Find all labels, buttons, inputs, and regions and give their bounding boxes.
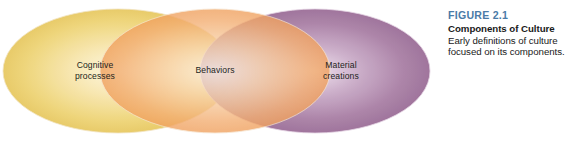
figure-caption-title: Components of Culture <box>448 23 555 34</box>
figure-2-1: Cognitive processes Behaviors Material c… <box>0 0 572 145</box>
venn-diagram-graphic <box>0 0 436 145</box>
ellipse-behaviors <box>100 9 330 133</box>
figure-number-label: FIGURE 2.1 <box>448 9 570 22</box>
figure-caption: FIGURE 2.1 Components of CultureEarly de… <box>448 9 570 58</box>
figure-caption-body: Components of CultureEarly definitions o… <box>448 23 570 58</box>
venn-diagram: Cognitive processes Behaviors Material c… <box>0 0 436 145</box>
figure-caption-description: Early definitions of culture focused on … <box>448 35 565 58</box>
